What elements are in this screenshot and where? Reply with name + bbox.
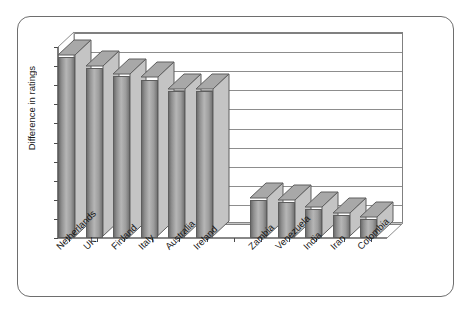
bar-slot bbox=[58, 57, 75, 239]
bar-slot bbox=[196, 91, 213, 238]
x-tick-mark bbox=[234, 238, 235, 242]
bar-slot bbox=[113, 76, 130, 238]
bar-slot bbox=[168, 91, 185, 238]
bar-slot bbox=[141, 80, 158, 239]
bars-container bbox=[58, 47, 403, 238]
chart-figure: Difference in ratings 2.32.22.121.91.81.… bbox=[0, 0, 475, 318]
plot-area bbox=[58, 32, 403, 238]
bar-3d-faces bbox=[196, 74, 231, 238]
y-axis-title: Difference in ratings bbox=[26, 66, 40, 150]
